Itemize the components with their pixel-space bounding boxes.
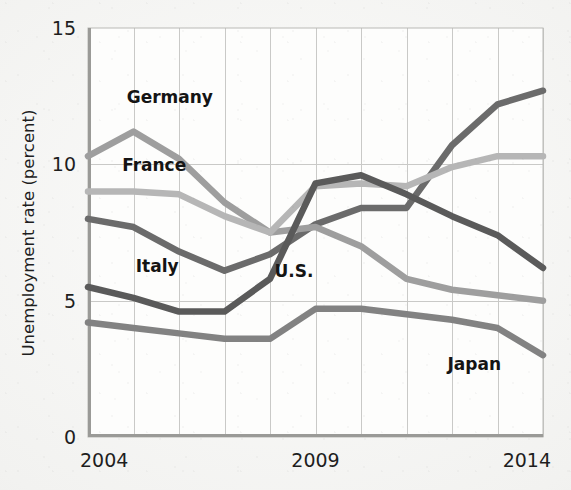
y-axis-tick-labels: 051015 <box>52 17 76 448</box>
x-tick-label-2004: 2004 <box>80 449 128 471</box>
y-tick-label-5: 5 <box>64 290 76 312</box>
y-tick-label-15: 15 <box>52 17 76 39</box>
x-axis-tick-labels: 200420092014 <box>80 449 551 471</box>
y-tick-label-0: 0 <box>64 426 76 448</box>
x-tick-label-2009: 2009 <box>291 449 339 471</box>
y-axis-title: Unemployment rate (percent) <box>19 110 38 357</box>
line-chart: 051015 200420092014 Unemployment rate (p… <box>0 0 571 490</box>
series-label-u-s: U.S. <box>275 261 314 281</box>
y-tick-label-10: 10 <box>52 153 76 175</box>
series-label-france: France <box>122 155 186 175</box>
x-tick-label-2014: 2014 <box>503 449 551 471</box>
series-label-japan: Japan <box>446 354 501 374</box>
series-label-germany: Germany <box>127 87 213 107</box>
series-label-italy: Italy <box>136 256 179 276</box>
figure-page: 051015 200420092014 Unemployment rate (p… <box>0 0 571 490</box>
